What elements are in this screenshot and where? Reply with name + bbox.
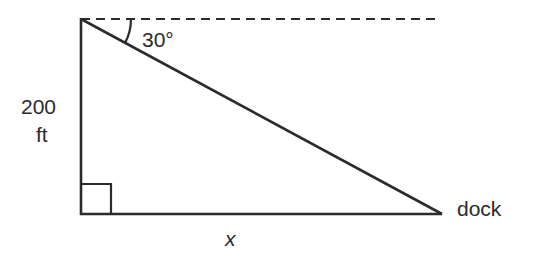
dock-label: dock <box>457 197 502 220</box>
triangle-diagram: 30° 200 ft x dock <box>0 0 546 256</box>
angle-arc <box>125 19 131 43</box>
height-value-label: 200 <box>21 95 56 118</box>
base-label: x <box>224 227 237 250</box>
height-unit-label: ft <box>36 123 48 146</box>
right-angle-marker <box>81 184 111 214</box>
hypotenuse <box>81 19 442 214</box>
angle-label: 30° <box>142 28 174 51</box>
